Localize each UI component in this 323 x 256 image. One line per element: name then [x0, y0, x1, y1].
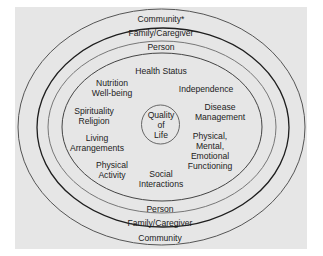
- factor-line: Living: [70, 133, 124, 143]
- factor-line: Management: [195, 112, 245, 122]
- ring-label-family-top: Family/Caregiver: [129, 28, 194, 38]
- factor-line: Physical,: [188, 131, 232, 141]
- factor-line: Spirituality: [74, 106, 114, 116]
- factor-social-interactions: Social Interactions: [139, 169, 183, 189]
- center-line: Quality: [148, 110, 175, 120]
- factor-line: Functioning: [188, 161, 232, 171]
- factor-line: Physical: [96, 160, 128, 170]
- ring-label-person-bottom: Person: [146, 204, 173, 214]
- center-line: Life: [148, 130, 175, 140]
- factor-line: Independence: [179, 84, 233, 94]
- factor-functioning: Physical, Mental, Emotional Functioning: [188, 131, 232, 171]
- factor-physical-activity: Physical Activity: [96, 160, 128, 180]
- factor-nutrition: Nutrition Well-being: [92, 78, 132, 98]
- ring-label-family-bottom: Family/Caregiver: [128, 218, 193, 228]
- factor-disease-management: Disease Management: [195, 102, 245, 122]
- factor-line: Activity: [96, 170, 128, 180]
- factor-line: Well-being: [92, 88, 132, 98]
- ring-label-person-top: Person: [147, 42, 174, 52]
- factor-line: Arrangements: [70, 143, 124, 153]
- factor-independence: Independence: [179, 84, 233, 94]
- factor-line: Emotional: [188, 151, 232, 161]
- factor-line: Religion: [74, 116, 114, 126]
- factor-line: Nutrition: [92, 78, 132, 88]
- factor-line: Disease: [195, 102, 245, 112]
- factor-line: Health Status: [135, 66, 187, 76]
- ring-label-community-top: Community*: [138, 14, 185, 24]
- center-line: of: [148, 120, 175, 130]
- ring-label-community-bottom: Community: [138, 233, 181, 243]
- factor-line: Mental,: [188, 141, 232, 151]
- factor-spirituality: Spirituality Religion: [74, 106, 114, 126]
- center-label-quality-of-life: Quality of Life: [148, 110, 175, 140]
- factor-line: Interactions: [139, 179, 183, 189]
- factor-living-arrangements: Living Arrangements: [70, 133, 124, 153]
- factor-line: Social: [139, 169, 183, 179]
- factor-health-status: Health Status: [135, 66, 187, 76]
